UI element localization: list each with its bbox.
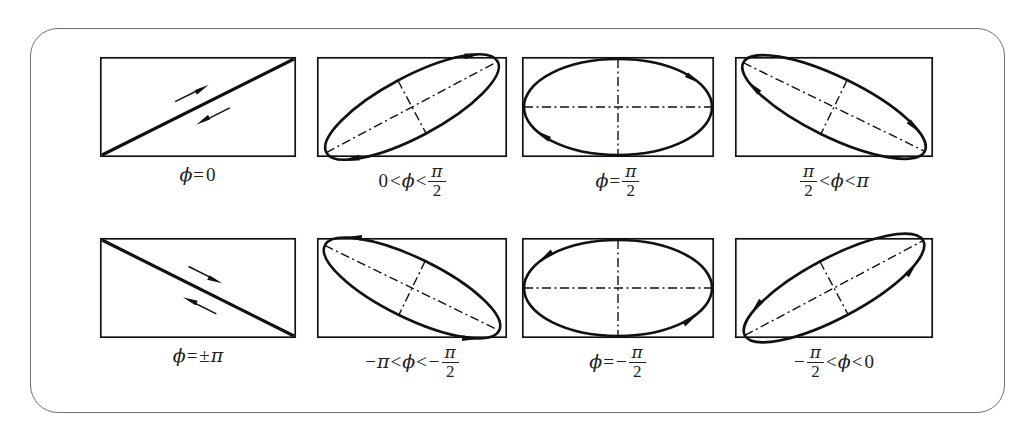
panel-caption-phi-eq-pi-over-2: ϕ=π2 [522,164,714,200]
fraction: π2 [629,344,646,380]
rotation-arrow-2 [682,314,697,326]
caption-token-op: < [844,170,857,191]
major-axis [326,61,497,152]
panel-caption-phi-eq-plus-minus-pi: ϕ=±π [100,345,296,365]
caption-equation: −π2<ϕ<0 [793,345,875,381]
caption-token-sym: π [211,344,224,366]
caption-token-op: < [818,170,831,191]
caption-equation: ϕ=±π [173,346,224,365]
polarization-line [102,59,294,155]
caption-equation: −π<ϕ<−π2 [364,345,460,381]
rotation-arrow-2 [685,72,701,83]
fraction-denominator: 2 [442,362,459,381]
fraction-denominator: 2 [807,362,824,381]
caption-token-sym: ϕ [831,169,844,191]
caption-token-op: < [415,351,428,372]
caption-token-sym: π [377,350,390,372]
caption-token-op: = [186,345,199,366]
fraction: π2 [800,163,817,199]
rotation-arrow-1 [538,250,553,262]
caption-token-num: − [364,351,377,372]
panel-caption-phi-0: ϕ=0 [100,164,296,184]
panel-graphic-phi-minus-pi-over-2-to-0 [719,222,949,354]
caption-token-num: 0 [863,351,875,372]
caption-equation: ϕ=0 [179,165,216,184]
caption-token-num: − [428,351,441,372]
minor-axis [821,80,847,134]
arrow-head-reverse [196,115,210,125]
arrow-head-forward [207,275,222,283]
arrow-head-forward [195,85,209,95]
panel-caption-phi-minus-pi-over-2-to-0: −π2<ϕ<0 [735,345,933,381]
panel-graphic-phi-0-to-pi-over-2 [301,41,523,173]
caption-token-num: − [615,351,628,372]
caption-token-op: < [825,351,838,372]
caption-token-op: < [851,351,864,372]
fraction-numerator: π [629,344,646,362]
panel-caption-phi-eq-minus-pi-over-2: ϕ=−π2 [522,345,714,381]
rotation-arrow-2 [907,119,921,133]
fraction: π2 [442,344,459,380]
caption-token-op: < [415,170,428,191]
caption-equation: ϕ=−π2 [589,345,647,381]
caption-token-sym: ϕ [589,350,602,372]
caption-token-op: = [602,351,615,372]
caption-token-num: 0 [377,170,389,191]
rotation-arrow-1 [535,130,551,141]
caption-token-sym: ϕ [838,350,851,372]
caption-equation: ϕ=π2 [596,164,641,200]
panel-caption-phi-pi-over-2-to-pi: π2<ϕ<π [735,164,933,200]
polarization-ellipse [731,222,938,354]
fraction-denominator: 2 [629,362,646,381]
fraction-denominator: 2 [428,181,445,200]
panel-graphic-phi-eq-plus-minus-pi [84,222,312,354]
panel-graphic-phi-eq-minus-pi-over-2 [506,222,730,354]
fraction-denominator: 2 [800,181,817,200]
caption-token-op: = [192,164,205,185]
panel-graphic-phi-pi-over-2-to-pi [719,41,949,173]
caption-token-sym: ϕ [402,350,415,372]
caption-token-op: < [389,170,402,191]
caption-token-sym: ϕ [179,163,192,185]
caption-equation: π2<ϕ<π [799,164,869,200]
polarization-line [102,240,294,336]
fraction: π2 [622,163,639,199]
panel-graphic-phi-minus-pi-to-minus-pi-over-2 [301,222,523,354]
caption-token-num: 0 [205,164,217,185]
fraction-numerator: π [428,163,445,181]
polarization-ellipse [730,41,938,173]
caption-token-num: − [793,351,806,372]
caption-token-op: = [609,170,622,191]
fraction-denominator: 2 [622,181,639,200]
caption-token-sym: ϕ [596,169,609,191]
caption-token-sym: ϕ [402,169,415,191]
fraction-numerator: π [442,344,459,362]
major-axis [325,245,499,330]
panel-caption-phi-minus-pi-to-minus-pi-over-2: −π<ϕ<−π2 [317,345,507,381]
caption-token-sym: ϕ [173,344,186,366]
major-axis [743,63,925,152]
fraction: π2 [428,163,445,199]
rotation-arrow-2 [905,262,918,277]
panel-caption-phi-0-to-pi-over-2: 0<ϕ<π2 [317,164,507,200]
caption-token-op: < [389,351,402,372]
panel-grid: ϕ=00<ϕ<π2ϕ=π2π2<ϕ<πϕ=±π−π<ϕ<−π2ϕ=−π2−π2<… [0,0,1036,435]
caption-token-sym: π [857,169,870,191]
minor-axis [820,262,848,315]
rotation-arrow-1 [747,81,761,95]
panel-graphic-phi-0 [84,41,312,173]
caption-equation: 0<ϕ<π2 [377,164,446,200]
rotation-arrow-1 [751,299,764,314]
caption-token-num: ± [198,345,210,366]
panel-graphic-phi-eq-pi-over-2 [506,41,730,173]
fraction-numerator: π [807,344,824,362]
fraction: π2 [807,344,824,380]
fraction-numerator: π [800,163,817,181]
fraction-numerator: π [622,163,639,181]
arrow-head-reverse [183,297,198,305]
